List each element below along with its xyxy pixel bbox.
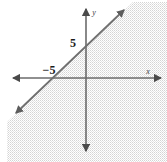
- x-intercept-tick-label: −5: [43, 63, 56, 77]
- solution-region: [7, 2, 167, 162]
- graph-figure: 5 −5 x y: [0, 0, 167, 162]
- y-intercept-tick-label: 5: [70, 36, 76, 50]
- x-axis-label: x: [145, 67, 150, 76]
- y-axis-label: y: [91, 8, 96, 17]
- coordinate-plane-svg: 5 −5 x y: [0, 0, 167, 162]
